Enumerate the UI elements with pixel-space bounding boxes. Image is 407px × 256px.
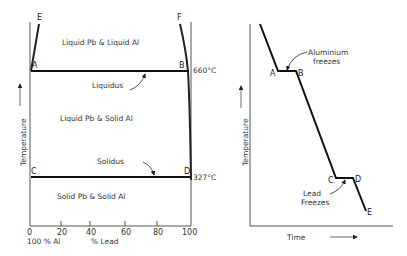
- x-tick-40: 40: [86, 228, 96, 237]
- region-liquid-liquid: Liquid Pb & Liquid Al: [62, 38, 139, 47]
- point-e: E: [37, 13, 42, 22]
- point-d: D: [184, 167, 190, 176]
- point-a: A: [32, 61, 38, 70]
- cc-point-e: E: [367, 208, 372, 217]
- lead-freezes-label-2: Freezes: [301, 198, 329, 207]
- aluminium-freezes-label-2: freezes: [313, 57, 340, 66]
- x-axis-label: % Lead: [91, 237, 119, 246]
- liquidus-arrow: [130, 74, 145, 90]
- point-c: C: [31, 167, 37, 176]
- cc-x-axis-label: Time: [286, 233, 306, 242]
- region-liquid-solid: Liquid Pb & Solid Al: [60, 114, 133, 123]
- x-tick-20: 20: [57, 228, 67, 237]
- cc-y-axis-label: Temperature: [241, 118, 250, 167]
- cc-point-c: C: [328, 176, 334, 185]
- phase-diagram: E F A B C D 660°C 327°C Liquid Pb & Liqu…: [19, 13, 216, 246]
- solidus-temp: 327°C: [193, 173, 216, 182]
- aluminium-arrow: [287, 52, 307, 70]
- point-b: B: [179, 61, 185, 70]
- liquidus-temp: 660°C: [193, 66, 216, 75]
- cc-point-d: D: [355, 175, 361, 184]
- aluminium-freezes-label-1: Aluminium: [308, 48, 348, 57]
- point-f: F: [177, 13, 182, 22]
- solidus-label: Solidus: [97, 157, 124, 166]
- y-axis-label: Temperature: [19, 118, 28, 167]
- diagram-canvas: E F A B C D 660°C 327°C Liquid Pb & Liqu…: [0, 0, 407, 256]
- solidus-arrow: [143, 162, 154, 175]
- cooling-curve: A B C D E Aluminium freezes Lead Freezes…: [241, 24, 393, 242]
- x-tick-80: 80: [153, 228, 163, 237]
- cc-point-a: A: [270, 69, 276, 78]
- x-tick-100: 100: [182, 228, 197, 237]
- x-tick-0: 0: [27, 228, 32, 237]
- liquidus-label: Liquidus: [92, 81, 123, 90]
- x-left-label: 100 % Al: [27, 237, 60, 246]
- lead-freezes-label-1: Lead: [303, 189, 321, 198]
- cc-point-b: B: [298, 69, 304, 78]
- x-tick-60: 60: [121, 228, 131, 237]
- curve-fb: [180, 24, 191, 180]
- region-solid-solid: Solid Pb & Solid Al: [57, 192, 125, 201]
